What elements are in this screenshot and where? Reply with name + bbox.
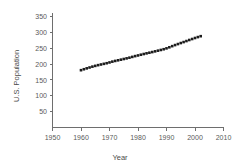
- data-point-marker: [165, 47, 168, 50]
- data-point-marker: [154, 50, 157, 53]
- data-point-marker: [151, 51, 154, 54]
- data-point-marker: [120, 58, 123, 61]
- data-point-marker: [182, 41, 185, 44]
- data-point-marker: [114, 60, 117, 63]
- axes-group: [53, 13, 224, 128]
- data-point-marker: [199, 35, 202, 38]
- y-tick-label: 100: [35, 92, 47, 99]
- data-point-marker: [191, 38, 194, 41]
- y-tick-label: 50: [39, 108, 47, 115]
- data-point-marker: [197, 36, 200, 39]
- y-tick-label: 350: [35, 13, 47, 20]
- data-point-marker: [185, 40, 188, 43]
- data-point-marker: [83, 68, 86, 71]
- data-point-marker: [188, 39, 191, 42]
- data-series-markers: [80, 35, 202, 72]
- data-point-marker: [85, 67, 88, 70]
- data-point-marker: [162, 48, 165, 51]
- y-axis-title: U.S. Population: [12, 50, 21, 102]
- population-scatter-chart: 5010015020025030035019501960197019801990…: [0, 0, 238, 166]
- y-tick-label: 200: [35, 61, 47, 68]
- data-point-marker: [131, 56, 134, 59]
- data-point-marker: [100, 63, 103, 66]
- data-point-marker: [145, 52, 148, 55]
- data-point-marker: [80, 69, 83, 72]
- x-tick-label: 2010: [216, 134, 232, 141]
- x-tick-label: 1960: [73, 134, 89, 141]
- data-point-marker: [97, 64, 100, 67]
- x-tick-label: 1950: [45, 134, 61, 141]
- data-point-marker: [128, 56, 131, 59]
- x-axis-title: Year: [112, 153, 128, 162]
- axis-ticks-group: [50, 17, 224, 132]
- y-tick-label: 250: [35, 45, 47, 52]
- data-point-marker: [194, 37, 197, 40]
- data-point-marker: [111, 60, 114, 63]
- data-point-marker: [148, 51, 151, 54]
- data-point-marker: [94, 65, 97, 68]
- data-point-marker: [160, 49, 163, 52]
- data-point-marker: [142, 53, 145, 56]
- data-point-marker: [174, 44, 177, 47]
- data-point-marker: [91, 65, 94, 68]
- data-point-marker: [168, 46, 171, 49]
- x-tick-label: 1970: [102, 134, 118, 141]
- data-point-marker: [140, 53, 143, 56]
- data-point-marker: [179, 42, 182, 45]
- data-point-marker: [108, 61, 111, 64]
- data-point-marker: [105, 62, 108, 65]
- data-point-marker: [157, 49, 160, 52]
- data-point-marker: [117, 59, 120, 62]
- data-point-marker: [134, 55, 137, 58]
- y-tick-label: 300: [35, 29, 47, 36]
- data-point-marker: [171, 45, 174, 48]
- y-tick-label: 150: [35, 77, 47, 84]
- chart-figure: 5010015020025030035019501960197019801990…: [0, 0, 238, 166]
- data-point-marker: [103, 63, 106, 66]
- x-tick-label: 1990: [159, 134, 175, 141]
- x-tick-label: 1980: [130, 134, 146, 141]
- data-point-marker: [125, 57, 128, 60]
- data-point-marker: [177, 43, 180, 46]
- axis-tick-labels-group: 5010015020025030035019501960197019801990…: [35, 13, 231, 140]
- x-tick-label: 2000: [187, 134, 203, 141]
- data-point-marker: [122, 58, 125, 61]
- data-point-marker: [88, 66, 91, 69]
- data-point-marker: [137, 54, 140, 57]
